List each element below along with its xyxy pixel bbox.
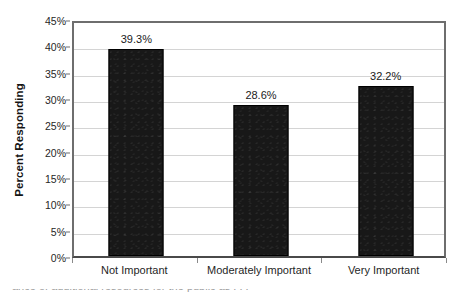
bar-chart-figure: Percent Responding 0%5%10%15%20%25%30%35… (0, 0, 457, 300)
bar (358, 86, 413, 256)
y-axis-tick-label: 5% (51, 226, 66, 238)
y-axis-tick-label: 10% (45, 199, 66, 211)
y-axis-tick-mark (66, 205, 70, 206)
bar-series: 39.3%28.6%32.2% (74, 23, 444, 256)
x-axis-tick-labels: Not ImportantModerately ImportantVery Im… (72, 264, 446, 282)
x-axis-tick-label: Moderately Important (207, 264, 311, 276)
y-axis-tick-labels: 0%5%10%15%20%25%30%35%40%45% (30, 21, 70, 258)
y-axis-tick-mark (66, 258, 70, 259)
bar-value-label: 28.6% (245, 89, 276, 101)
y-axis-title: Percent Responding (8, 21, 30, 258)
category-separator-tick (197, 258, 198, 263)
category-separator-tick (321, 258, 322, 263)
y-axis-tick-label: 40% (45, 41, 66, 53)
x-axis-tick-label: Very Important (348, 264, 420, 276)
category-separator-tick (72, 258, 73, 263)
y-axis-tick-mark (66, 47, 70, 48)
bar-column: 32.2% (323, 23, 448, 256)
plot-area: 39.3%28.6%32.2% (72, 21, 446, 258)
y-axis-tick-mark (66, 179, 70, 180)
x-axis-tick-label: Not Important (101, 264, 168, 276)
y-axis-tick-label: 0% (51, 252, 66, 264)
y-axis-tick-mark (66, 152, 70, 153)
y-axis-tick-mark (66, 100, 70, 101)
category-separator-tick (446, 258, 447, 263)
cropped-caption: ance of additional resources for the pub… (0, 289, 457, 300)
bar-value-label: 39.3% (121, 33, 152, 45)
bar (233, 105, 288, 256)
bar-value-label: 32.2% (370, 70, 401, 82)
y-axis-tick-label: 25% (45, 120, 66, 132)
y-axis-title-text: Percent Responding (13, 83, 25, 197)
y-axis-tick-mark (66, 126, 70, 127)
y-axis-tick-mark (66, 231, 70, 232)
y-axis-tick-label: 45% (45, 15, 66, 27)
cropped-caption-text: ance of additional resources for the pub… (12, 289, 249, 292)
y-axis-tick-label: 35% (45, 68, 66, 80)
bar-column: 39.3% (74, 23, 199, 256)
y-axis-tick-mark (66, 73, 70, 74)
y-axis-tick-label: 30% (45, 94, 66, 106)
y-axis-tick-mark (66, 21, 70, 22)
bar (109, 49, 164, 256)
y-axis-tick-label: 20% (45, 147, 66, 159)
bar-column: 28.6% (199, 23, 324, 256)
y-axis-tick-label: 15% (45, 173, 66, 185)
